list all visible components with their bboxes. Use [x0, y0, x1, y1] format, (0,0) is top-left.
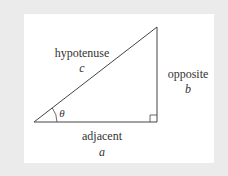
- adjacent-variable: a: [94, 146, 110, 159]
- theta-angle-symbol: θ: [55, 107, 69, 120]
- opposite-variable: b: [180, 83, 196, 96]
- hypotenuse-label: hypotenuse: [52, 47, 112, 60]
- adjacent-label: adjacent: [74, 130, 130, 143]
- opposite-label: opposite: [164, 68, 212, 81]
- right-angle-marker: [150, 115, 157, 122]
- hypotenuse-variable: c: [74, 62, 90, 75]
